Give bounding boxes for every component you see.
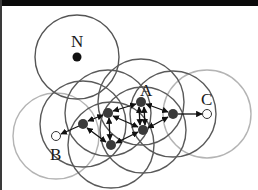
node-C: [203, 110, 212, 119]
node-n6: [168, 109, 178, 119]
label-N: N: [71, 32, 83, 51]
coverage-circles: [13, 15, 251, 188]
node-B: [52, 132, 61, 141]
label-B: B: [50, 145, 61, 164]
edge-A-n4-b: [144, 107, 145, 125]
network-diagram: N A B C: [0, 0, 258, 190]
edge-A-n4-a: [139, 107, 140, 125]
node-n2: [103, 108, 113, 118]
edge-n1-n5: [87, 128, 106, 142]
label-A: A: [140, 81, 153, 100]
label-C: C: [201, 90, 212, 109]
edge-n2-n5: [109, 118, 110, 140]
node-n4: [138, 125, 148, 135]
node-N: [73, 53, 82, 62]
node-n5: [106, 140, 116, 150]
edge-A-n6: [146, 104, 168, 112]
edge-n5-n4: [116, 132, 138, 143]
node-n1: [78, 119, 88, 129]
